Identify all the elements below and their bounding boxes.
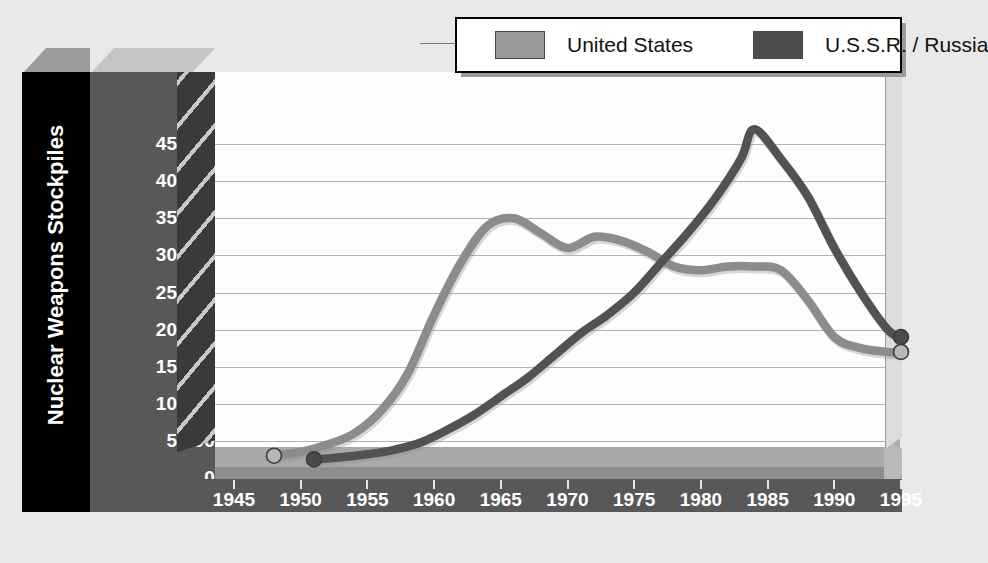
x-axis-tick	[300, 480, 302, 489]
legend-entry: United States	[495, 31, 693, 59]
y-axis-title-panel: Nuclear Weapons Stockpiles	[22, 72, 90, 512]
x-axis-tick-label: 1945	[213, 489, 255, 511]
legend-leader-line	[420, 43, 456, 44]
x-axis-tick	[567, 480, 569, 489]
y-axis-panel-top-face	[90, 48, 215, 74]
x-axis-tick-label: 1995	[880, 489, 922, 511]
y-axis-side-wall	[177, 72, 215, 452]
gridline	[215, 441, 885, 442]
x-axis-tick	[233, 480, 235, 489]
x-axis-tick	[433, 480, 435, 489]
legend-entry: U.S.S.R. / Russia	[753, 31, 988, 59]
gridline	[215, 255, 885, 256]
x-axis-tick	[900, 480, 902, 489]
x-axis-tick	[633, 480, 635, 489]
gridline	[215, 404, 885, 405]
x-axis-tick	[500, 480, 502, 489]
x-axis-tick-label: 1975	[613, 489, 655, 511]
x-axis-tick	[700, 480, 702, 489]
gridline	[215, 181, 885, 182]
x-axis-tick	[366, 480, 368, 489]
x-axis-tick-label: 1990	[813, 489, 855, 511]
legend-swatch	[753, 31, 803, 59]
gridline	[215, 218, 885, 219]
gridline	[215, 144, 885, 145]
legend-swatch	[495, 31, 545, 59]
gridline	[215, 367, 885, 368]
x-axis-tick-label: 1965	[480, 489, 522, 511]
base-slab-front	[140, 467, 900, 479]
plot-right-wall	[885, 60, 903, 449]
y-axis-title: Nuclear Weapons Stockpiles	[43, 55, 69, 495]
x-axis-tick-label: 1950	[280, 489, 322, 511]
x-axis-tick-label: 1985	[746, 489, 788, 511]
gridline	[215, 293, 885, 294]
x-axis-tick-label: 1970	[546, 489, 588, 511]
legend-label: U.S.S.R. / Russia	[825, 33, 988, 57]
chart-legend: United StatesU.S.S.R. / Russia	[455, 17, 902, 73]
plot-area	[215, 72, 885, 447]
x-axis-tick	[833, 480, 835, 489]
legend-label: United States	[567, 33, 693, 57]
x-axis-tick	[767, 480, 769, 489]
gridline	[215, 330, 885, 331]
x-axis-tick-label: 1960	[413, 489, 455, 511]
x-axis-tick-label: 1980	[680, 489, 722, 511]
x-axis-tick-label: 1955	[346, 489, 388, 511]
